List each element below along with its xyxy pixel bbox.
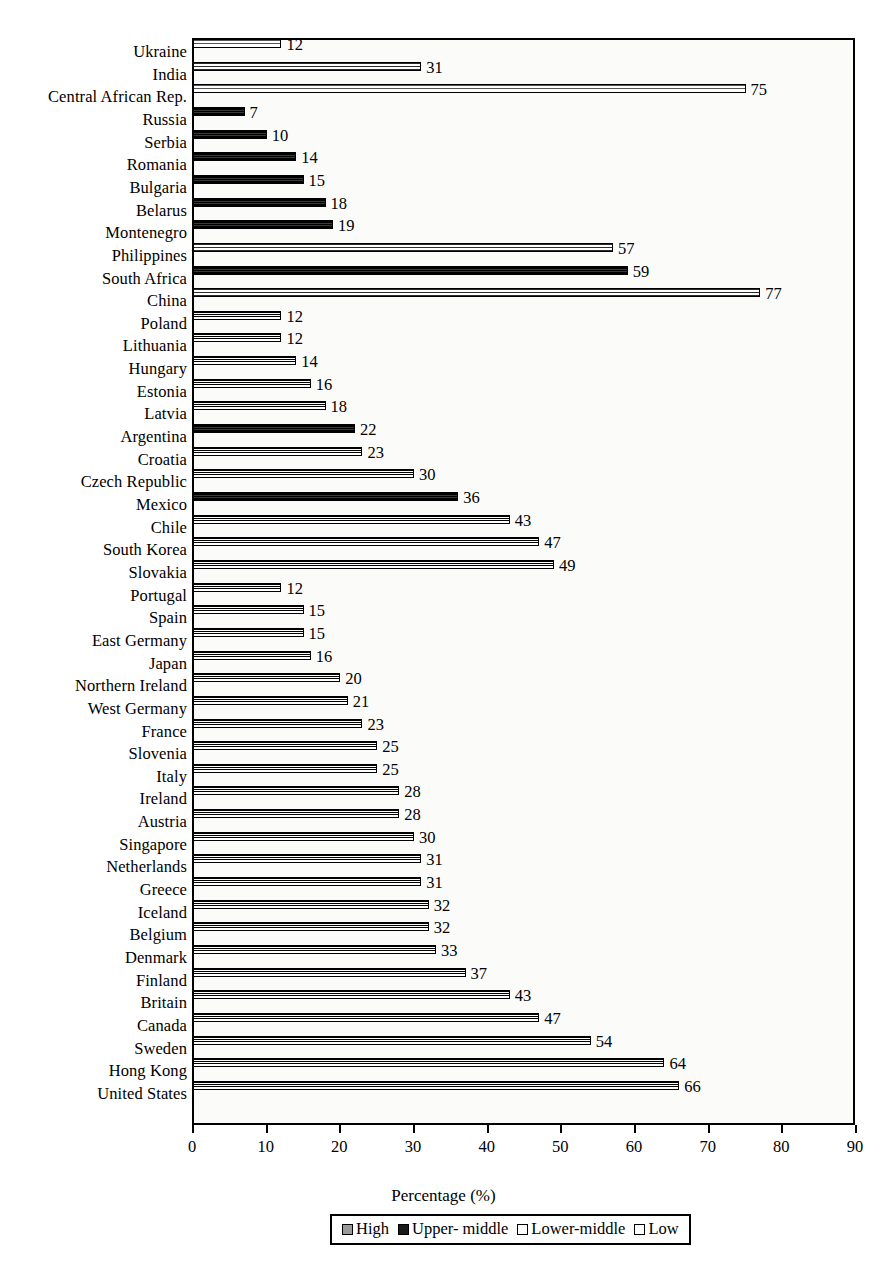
bar-row: Ukraine12 [0,38,887,61]
bar-track: 19 [193,219,856,242]
bar-value-label: 30 [419,468,436,482]
bar [193,130,267,139]
bar [193,311,281,320]
bar-track: 43 [193,989,856,1012]
bar-track: 23 [193,446,856,469]
category-label: Serbia [144,134,187,152]
bar-value-label: 14 [301,151,318,165]
legend-item: Upper- middle [398,1219,508,1239]
category-label: France [142,723,188,741]
bar-row: Slovakia49 [0,559,887,582]
bar-value-label: 15 [309,627,326,641]
x-axis-tick [192,1125,194,1133]
bar-row: Argentina22 [0,423,887,446]
bar-row: East Germany15 [0,627,887,650]
category-label: Mexico [136,496,187,514]
bar-track: 18 [193,197,856,220]
bar-row: Britain43 [0,989,887,1012]
x-axis-tick [413,1125,415,1133]
category-label: Greece [140,881,187,899]
bar [193,719,362,728]
x-axis-tick-label: 10 [257,1137,274,1157]
bar [193,877,421,886]
bar-value-label: 28 [404,785,421,799]
bar [193,1013,539,1022]
bar-track: 47 [193,536,856,559]
bar-row: South Korea47 [0,536,887,559]
category-label: Latvia [144,405,187,423]
bar [193,583,281,592]
bar-value-label: 7 [250,106,258,120]
bar-row: Ireland28 [0,785,887,808]
bar [193,356,296,365]
bar [193,492,458,501]
x-axis: 0102030405060708090 [192,1125,855,1126]
bar [193,560,554,569]
bar-row: Lithuania12 [0,332,887,355]
category-label: Spain [149,609,187,627]
bar-value-label: 12 [286,582,303,596]
bar-value-label: 12 [286,332,303,346]
category-label: Sweden [134,1040,187,1058]
category-label: Finland [136,972,187,990]
bar [193,333,281,342]
x-axis-tick [708,1125,710,1133]
legend-label: Low [648,1219,678,1239]
category-label: East Germany [92,632,187,650]
category-label: Iceland [138,904,187,922]
bar-value-label: 22 [360,423,377,437]
x-axis-tick-label: 70 [699,1137,716,1157]
x-axis-tick [781,1125,783,1133]
bar-row: Mexico36 [0,491,887,514]
bar-track: 28 [193,808,856,831]
bar-track: 15 [193,604,856,627]
bar-value-label: 64 [669,1057,686,1071]
bar-track: 15 [193,627,856,650]
bar [193,696,348,705]
bar [193,832,414,841]
bar [193,198,326,207]
bar [193,537,539,546]
bar-value-label: 10 [272,129,289,143]
bar [193,84,746,93]
bar-row: Northern Ireland20 [0,672,887,695]
bar-value-label: 77 [765,287,782,301]
bar [193,515,510,524]
bar-value-label: 25 [382,763,399,777]
bar-value-label: 12 [286,310,303,324]
bar [193,605,304,614]
bar-row: Croatia23 [0,446,887,469]
bar-row: Philippines57 [0,242,887,265]
bar-track: 16 [193,378,856,401]
bar [193,288,760,297]
bar-value-label: 28 [404,808,421,822]
bar-row: Belarus18 [0,197,887,220]
x-axis-tick-label: 40 [478,1137,495,1157]
bar-row: Serbia10 [0,129,887,152]
category-label: Denmark [125,949,187,967]
legend-swatch-icon [634,1224,645,1235]
bar-track: 66 [193,1080,856,1103]
horizontal-bar-chart-figure: Ukraine12India31Central African Rep.75Ru… [0,0,887,1271]
bar-track: 21 [193,695,856,718]
bar-value-label: 43 [515,989,532,1003]
legend-item: Low [634,1219,678,1239]
category-label: Northern Ireland [75,677,187,695]
bar-rows-container: Ukraine12India31Central African Rep.75Ru… [0,38,887,1125]
bar [193,447,362,456]
category-label: Estonia [137,383,187,401]
bar-track: 14 [193,355,856,378]
category-label: South Korea [103,541,187,559]
bar-value-label: 47 [544,1012,561,1026]
bar-row: France23 [0,718,887,741]
x-axis-tick-label: 80 [773,1137,790,1157]
bar-value-label: 21 [353,695,370,709]
bar [193,673,340,682]
bar-value-label: 32 [434,921,451,935]
bar-track: 28 [193,785,856,808]
bar-row: Estonia16 [0,378,887,401]
x-axis-tick-label: 0 [188,1137,196,1157]
legend-swatch-icon [342,1224,353,1235]
bar-value-label: 23 [367,446,384,460]
bar-track: 25 [193,740,856,763]
